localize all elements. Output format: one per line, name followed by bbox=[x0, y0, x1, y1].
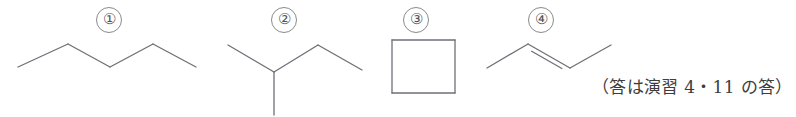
structure-2-butene bbox=[487, 44, 611, 69]
bond-line bbox=[153, 44, 196, 67]
bond-line bbox=[68, 44, 110, 67]
bond-line bbox=[528, 44, 570, 68]
item-number-4: ④ bbox=[528, 7, 554, 33]
item-number-2: ② bbox=[271, 7, 297, 33]
bond-line bbox=[274, 45, 318, 72]
item-number-1: ① bbox=[96, 7, 122, 33]
bond-line bbox=[18, 44, 68, 67]
structure-pentane bbox=[18, 44, 196, 67]
bond-line bbox=[570, 45, 611, 68]
item-number-3: ③ bbox=[403, 7, 429, 33]
bond-line bbox=[487, 44, 528, 68]
structure-2-methylbutane bbox=[228, 45, 362, 115]
double-bond-inner-line bbox=[532, 51, 562, 68]
answer-reference-note: （答は演習 4・11 の答） bbox=[592, 76, 792, 98]
bond-line bbox=[110, 44, 153, 67]
bond-line bbox=[318, 45, 362, 70]
bond-line bbox=[228, 45, 274, 72]
structure-cyclobutane bbox=[392, 40, 455, 93]
